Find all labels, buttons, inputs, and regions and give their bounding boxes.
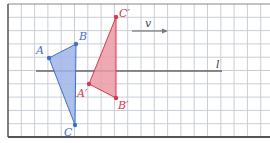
translation-diagram: A B C A′ B′ C′ v l — [0, 0, 270, 143]
point-c — [73, 123, 77, 127]
point-b — [74, 42, 78, 46]
label-c-prime: C′ — [119, 7, 130, 20]
label-a: A — [35, 44, 44, 57]
label-c: C — [64, 126, 73, 139]
point-c-prime — [114, 15, 118, 19]
point-a — [47, 56, 51, 60]
label-l: l — [216, 58, 220, 71]
label-a-prime: A′ — [76, 87, 88, 100]
label-v: v — [145, 17, 152, 30]
triangle-abc — [49, 44, 76, 125]
label-b-prime: B′ — [117, 99, 129, 112]
point-a-prime — [87, 82, 91, 86]
label-b: B — [78, 30, 87, 43]
